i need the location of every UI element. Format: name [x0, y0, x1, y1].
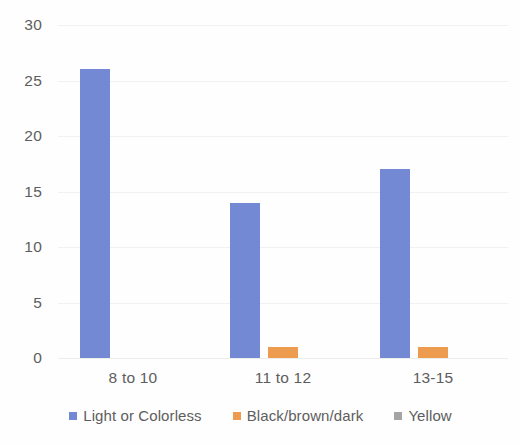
x-axis-category-label: 13-15	[413, 369, 454, 387]
gridline	[58, 247, 508, 248]
bar	[230, 203, 260, 358]
bar	[80, 69, 110, 358]
y-axis-tick-label: 0	[33, 349, 42, 367]
legend-swatch-icon	[233, 412, 241, 420]
chart-legend: Light or ColorlessBlack/brown/darkYellow	[0, 407, 521, 424]
gridline	[58, 136, 508, 137]
y-axis-tick-label: 10	[24, 238, 42, 256]
y-axis-tick-label: 15	[24, 183, 42, 201]
y-axis-tick-label: 30	[24, 16, 42, 34]
y-axis-tick-label: 20	[24, 127, 42, 145]
x-axis-category-label: 8 to 10	[109, 369, 158, 387]
legend-item[interactable]: Black/brown/dark	[233, 407, 364, 424]
gridline	[58, 192, 508, 193]
legend-item-label: Light or Colorless	[83, 407, 202, 424]
gridline	[58, 358, 508, 359]
legend-item[interactable]: Yellow	[394, 407, 451, 424]
gridline	[58, 25, 508, 26]
gridline	[58, 81, 508, 82]
bar-chart: 051015202530 8 to 1011 to 1213-15 Light …	[0, 0, 521, 445]
bar	[380, 169, 410, 358]
x-axis-category-label: 11 to 12	[255, 369, 311, 387]
legend-item-label: Black/brown/dark	[247, 407, 364, 424]
bar	[418, 347, 448, 358]
y-axis-tick-label: 5	[33, 294, 42, 312]
plot-area	[58, 25, 508, 358]
y-axis: 051015202530	[0, 0, 52, 390]
legend-item-label: Yellow	[408, 407, 451, 424]
gridline	[58, 303, 508, 304]
legend-swatch-icon	[394, 412, 402, 420]
y-axis-tick-label: 25	[24, 72, 42, 90]
legend-swatch-icon	[69, 412, 77, 420]
bar	[268, 347, 298, 358]
legend-item[interactable]: Light or Colorless	[69, 407, 202, 424]
